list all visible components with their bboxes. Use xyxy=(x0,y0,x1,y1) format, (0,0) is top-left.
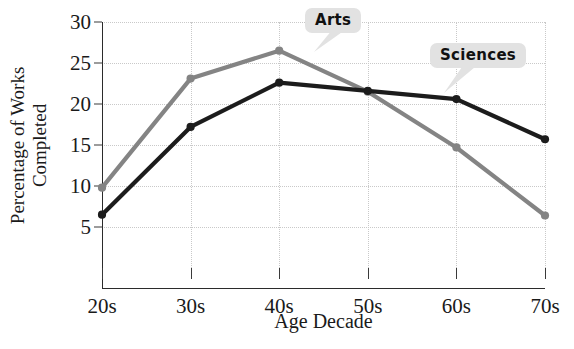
data-point-sciences-40s xyxy=(275,79,283,87)
y-tick-label: 30 xyxy=(70,10,91,35)
x-axis-line xyxy=(102,288,545,289)
data-point-sciences-60s xyxy=(452,95,460,103)
y-tick-mark xyxy=(94,104,102,105)
plot-area: 51015202530 20s30s40s50s60s70s ArtsScien… xyxy=(102,22,545,268)
x-tick-mark xyxy=(368,268,369,279)
x-tick-mark xyxy=(102,268,103,279)
y-tick-label: 10 xyxy=(70,174,91,199)
data-point-sciences-30s xyxy=(187,123,195,131)
y-tick-label: 5 xyxy=(81,215,92,240)
y-tick-label: 15 xyxy=(70,133,91,158)
y-tick-mark xyxy=(94,22,102,23)
y-tick-mark xyxy=(94,63,102,64)
data-point-arts-20s xyxy=(98,184,106,192)
y-tick-mark xyxy=(94,227,102,228)
gridline-vertical xyxy=(545,22,546,268)
callout-label-sciences: Sciences xyxy=(430,43,526,68)
callout-tail-sciences xyxy=(462,67,502,107)
x-tick-mark xyxy=(545,268,546,279)
y-axis-title-line-1: Percentage of Works xyxy=(8,66,30,223)
y-tick-mark xyxy=(94,145,102,146)
y-tick-label: 25 xyxy=(70,51,91,76)
y-tick-label: 20 xyxy=(70,92,91,117)
data-point-arts-40s xyxy=(275,47,283,55)
x-axis-title: Age Decade xyxy=(102,310,545,333)
x-tick-mark xyxy=(456,268,457,279)
chart-figure: Percentage of Works Completed 5101520253… xyxy=(0,0,574,349)
y-axis-title: Percentage of Works Completed xyxy=(0,0,60,290)
x-tick-mark xyxy=(279,268,280,279)
data-point-sciences-50s xyxy=(364,87,372,95)
x-tick-mark xyxy=(191,268,192,279)
data-point-arts-30s xyxy=(187,74,195,82)
data-point-arts-70s xyxy=(541,211,549,219)
data-point-arts-60s xyxy=(452,143,460,151)
callout-tail-arts xyxy=(332,30,372,70)
data-point-sciences-70s xyxy=(541,135,549,143)
data-point-sciences-20s xyxy=(98,211,106,219)
y-axis-title-line-2: Completed xyxy=(30,66,52,223)
callout-label-arts: Arts xyxy=(305,8,361,33)
